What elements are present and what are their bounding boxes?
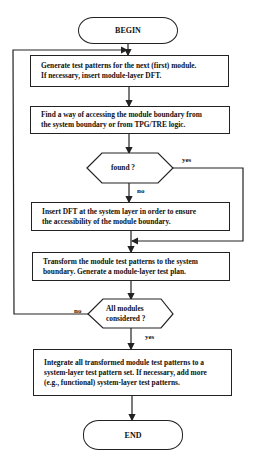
decision-all-modules-label: All modules considered ?: [106, 304, 146, 324]
step-line: the accessibility of the module boundary…: [42, 217, 229, 227]
step-line: Integrate all transformed module test pa…: [44, 358, 231, 368]
decision-line: All modules: [106, 304, 146, 314]
step-generate-patterns: Generate test patterns for the next (fir…: [30, 55, 229, 87]
end-terminal: END: [83, 420, 183, 450]
step-integrate-patterns: Integrate all transformed module test pa…: [33, 349, 232, 396]
step-line: (e.g., functional) system-layer test pat…: [44, 378, 231, 388]
step-line: system-layer test pattern set. If necess…: [44, 368, 231, 378]
step-line: boundary. Generate a module-layer test p…: [43, 267, 229, 277]
step-line: Insert DFT at the system layer in order …: [42, 207, 229, 217]
found-no-label: no: [137, 187, 144, 195]
step-find-access: Find a way of accessing the module bound…: [30, 106, 230, 134]
step-line: If necessary, insert module-layer DFT.: [41, 71, 228, 81]
all-modules-yes-label: yes: [145, 333, 154, 341]
step-line: the system boundary or from TPG/TRE logi…: [41, 120, 229, 130]
decision-line: considered ?: [106, 314, 146, 324]
found-yes-label: yes: [182, 156, 191, 164]
step-line: Find a way of accessing the module bound…: [41, 110, 229, 120]
decision-line: found ?: [111, 163, 135, 173]
decision-found-label: found ?: [111, 163, 135, 173]
step-insert-dft: Insert DFT at the system layer in order …: [31, 202, 230, 231]
step-line: Generate test patterns for the next (fir…: [41, 61, 228, 71]
step-line: Transform the module test patterns to th…: [43, 257, 229, 267]
all-modules-no-label: no: [74, 307, 81, 315]
step-transform-patterns: Transform the module test patterns to th…: [32, 252, 230, 281]
begin-terminal: BEGIN: [78, 17, 178, 44]
end-label: END: [125, 431, 142, 440]
begin-label: BEGIN: [115, 26, 141, 35]
